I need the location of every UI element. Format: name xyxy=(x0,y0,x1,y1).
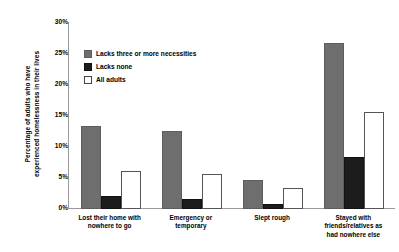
bar xyxy=(344,157,364,209)
bar xyxy=(364,112,384,209)
y-axis-tick: 0% xyxy=(28,208,68,209)
bar-chart: Percentage of adults who have experience… xyxy=(0,0,399,252)
bar-group xyxy=(313,22,394,209)
y-axis-tick: 15% xyxy=(28,115,68,116)
y-axis-tick-mark xyxy=(63,84,68,85)
legend-swatch-icon xyxy=(84,63,92,71)
legend-item: Lacks three or more necessities xyxy=(84,48,196,59)
legend-item-label: Lacks three or more necessities xyxy=(96,50,196,57)
y-axis-tick: 25% xyxy=(28,53,68,54)
y-axis-tick-mark xyxy=(63,115,68,116)
bar xyxy=(101,196,121,209)
y-axis-tick-mark xyxy=(63,146,68,147)
y-axis-tick-mark xyxy=(63,177,68,178)
x-axis-category-label-line: friends/relatives as xyxy=(305,222,399,230)
bar xyxy=(283,188,303,209)
legend-item-label: All adults xyxy=(96,76,126,83)
bar-group xyxy=(232,22,313,209)
x-axis-category-label-line: temporary xyxy=(142,222,239,230)
bar xyxy=(182,199,202,209)
bar xyxy=(324,43,344,209)
y-axis-tick-mark xyxy=(63,22,68,23)
y-axis-tick: 20% xyxy=(28,84,68,85)
legend-item: All adults xyxy=(84,74,196,85)
y-axis-title-line-1: Percentage of adults who have xyxy=(24,66,31,163)
y-axis-tick: 5% xyxy=(28,177,68,178)
legend-swatch-icon xyxy=(84,50,92,58)
x-axis-category-label-line: had nowhere else xyxy=(305,231,399,239)
x-axis-category-label-line: Stayed with xyxy=(305,214,399,222)
y-axis-tick: 10% xyxy=(28,146,68,147)
legend-item-label: Lacks none xyxy=(96,63,132,70)
bar xyxy=(162,131,182,209)
y-axis-tick: 30% xyxy=(28,22,68,23)
y-axis-tick-mark xyxy=(63,53,68,54)
legend-swatch-icon xyxy=(84,76,92,84)
bar xyxy=(243,180,263,209)
bar xyxy=(263,204,283,209)
chart-legend: Lacks three or more necessitiesLacks non… xyxy=(84,48,196,87)
bar xyxy=(202,174,222,209)
x-axis-category-label: Stayed withfriends/relatives ashad nowhe… xyxy=(305,214,399,239)
bar xyxy=(81,126,101,209)
legend-item: Lacks none xyxy=(84,61,196,72)
bar xyxy=(121,171,141,209)
